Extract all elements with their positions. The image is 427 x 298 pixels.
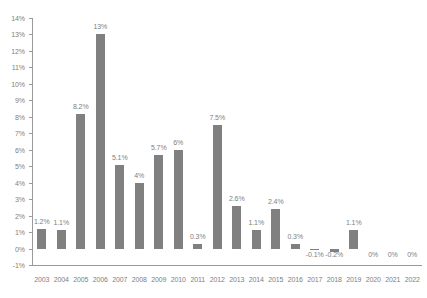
x-tick-label: 2009: [151, 276, 166, 283]
y-tick-label: 7%: [15, 130, 25, 137]
plot-area: 1.2%1.1%8.2%13%5.1%4%5.7%6%0.3%7.5%2.6%1…: [32, 0, 422, 298]
bar[interactable]: [115, 165, 124, 249]
bar-value-label: 1.1%: [53, 219, 69, 226]
y-axis: -1%0%1%2%3%4%5%6%7%8%9%10%11%12%13%14%: [0, 0, 30, 298]
y-tick-mark: [29, 150, 32, 151]
bar[interactable]: [213, 125, 222, 249]
bar[interactable]: [193, 244, 202, 249]
bar[interactable]: [349, 230, 358, 248]
bar[interactable]: [271, 209, 280, 249]
bar-value-label: 2.6%: [229, 195, 245, 202]
bar-value-label: 0%: [407, 251, 417, 258]
bar-value-label: 0%: [368, 251, 378, 258]
x-tick-label: 2018: [327, 276, 342, 283]
bar-value-label: 1.1%: [248, 219, 264, 226]
y-tick-label: 8%: [15, 113, 25, 120]
y-tick-mark: [29, 265, 32, 266]
y-tick-mark: [29, 18, 32, 19]
y-tick-mark: [29, 216, 32, 217]
bar-value-label: 4%: [134, 172, 144, 179]
y-tick-mark: [29, 100, 32, 101]
bar-value-label: 5.7%: [151, 144, 167, 151]
bar[interactable]: [174, 150, 183, 249]
y-tick-label: 9%: [15, 97, 25, 104]
bar-value-label: 2.4%: [268, 198, 284, 205]
x-tick-label: 2011: [190, 276, 205, 283]
x-tick-label: 2012: [210, 276, 225, 283]
y-tick-mark: [29, 232, 32, 233]
bar[interactable]: [291, 244, 300, 249]
x-tick-label: 2020: [366, 276, 381, 283]
x-tick-label: 2007: [112, 276, 127, 283]
x-tick-label: 2014: [249, 276, 264, 283]
y-tick-label: 13%: [11, 31, 25, 38]
y-tick-mark: [29, 84, 32, 85]
x-tick-label: 2016: [288, 276, 303, 283]
bar[interactable]: [37, 229, 46, 249]
x-tick-label: 2022: [405, 276, 420, 283]
bar[interactable]: [252, 230, 261, 248]
x-tick-label: 2015: [268, 276, 283, 283]
y-tick-label: 14%: [11, 15, 25, 22]
y-tick-label: 2%: [15, 212, 25, 219]
x-tick-label: 2008: [132, 276, 147, 283]
x-tick-label: 2005: [73, 276, 88, 283]
x-tick-label: 2003: [34, 276, 49, 283]
x-tick-label: 2019: [346, 276, 361, 283]
bar-value-label: 7.5%: [209, 114, 225, 121]
bar-value-label: 0.3%: [287, 233, 303, 240]
bar[interactable]: [135, 183, 144, 249]
x-tick-label: 2013: [229, 276, 244, 283]
bar[interactable]: [154, 155, 163, 249]
bar-value-label: 0%: [388, 251, 398, 258]
y-tick-label: 0%: [15, 245, 25, 252]
y-tick-label: 11%: [12, 64, 25, 71]
bar[interactable]: [96, 34, 105, 248]
y-tick-mark: [29, 183, 32, 184]
y-tick-mark: [29, 199, 32, 200]
bar-value-label: -0.1%: [306, 251, 324, 258]
bar-value-label: 6%: [173, 139, 183, 146]
x-tick-label: 2010: [171, 276, 186, 283]
bar-value-label: 13%: [93, 23, 107, 30]
y-tick-mark: [29, 249, 32, 250]
y-tick-mark: [29, 133, 32, 134]
bar-value-label: 0.3%: [190, 233, 206, 240]
x-tick-label: 2021: [385, 276, 400, 283]
y-tick-label: 12%: [11, 47, 25, 54]
x-tick-label: 2004: [54, 276, 69, 283]
y-tick-label: 10%: [11, 80, 25, 87]
bar[interactable]: [57, 230, 66, 248]
y-tick-label: 3%: [15, 196, 25, 203]
y-tick-label: 5%: [15, 163, 25, 170]
y-tick-mark: [29, 117, 32, 118]
y-tick-label: -1%: [13, 262, 25, 269]
bar-chart: -1%0%1%2%3%4%5%6%7%8%9%10%11%12%13%14% 1…: [0, 0, 427, 298]
y-tick-mark: [29, 51, 32, 52]
y-tick-label: 1%: [15, 229, 25, 236]
x-tick-label: 2006: [93, 276, 108, 283]
x-tick-label: 2017: [307, 276, 322, 283]
bar-value-label: 8.2%: [73, 103, 89, 110]
y-tick-mark: [29, 166, 32, 167]
bar[interactable]: [76, 114, 85, 249]
bar-value-label: 1.2%: [34, 218, 50, 225]
bar-value-label: 5.1%: [112, 154, 128, 161]
bar[interactable]: [232, 206, 241, 249]
y-tick-label: 4%: [15, 179, 25, 186]
y-tick-mark: [29, 34, 32, 35]
y-tick-mark: [29, 67, 32, 68]
bar-value-label: 1.1%: [346, 219, 362, 226]
y-tick-label: 6%: [15, 146, 25, 153]
bar-value-label: -0.2%: [325, 251, 343, 258]
